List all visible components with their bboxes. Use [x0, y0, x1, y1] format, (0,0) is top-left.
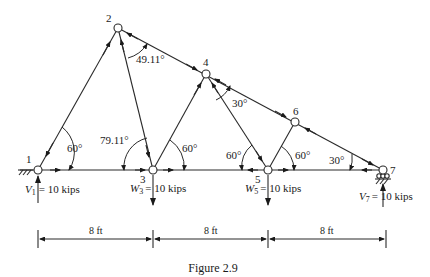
joint-4 [202, 70, 210, 78]
dimension-label-1: 8 ft [89, 225, 103, 236]
dimension-label-3: 8 ft [320, 225, 334, 236]
angle-label-joint2: 49.11° [136, 53, 165, 65]
joint-5 [264, 166, 272, 174]
label-w3: W3= 10 kips [130, 182, 186, 196]
joint-2 [114, 24, 122, 32]
angle-label-joint1: 60° [67, 142, 82, 154]
roller-support-joint7 [375, 174, 391, 184]
truss-diagram: 60° 49.11° 79.11° 60° 30° 60° 60° 30° V1… [0, 0, 430, 277]
joint-label-3: 3 [140, 173, 146, 185]
joint-label-7: 7 [390, 164, 396, 176]
angle-label-joint3-left: 79.11° [100, 134, 129, 146]
joint-label-2: 2 [106, 12, 112, 24]
label-v1: V1= 10 kips [25, 183, 80, 197]
joint-label-6: 6 [293, 105, 299, 117]
joint-label-1: 1 [26, 153, 32, 165]
label-v7: V7= 10 kips [359, 190, 413, 204]
dimension-label-2: 8 ft [204, 225, 218, 236]
angle-label-joint5-left: 60° [226, 149, 241, 161]
angle-label-joint3-right: 60° [182, 142, 197, 154]
joint-label-5: 5 [255, 173, 261, 185]
joint-3 [149, 166, 157, 174]
figure-caption: Figure 2.9 [188, 261, 237, 275]
joint-label-4: 4 [203, 56, 209, 68]
angle-label-joint7: 30° [329, 154, 344, 166]
force-arrows [46, 33, 373, 170]
pin-support-joint1 [18, 170, 33, 175]
member-2-4-6-7-top-chord [118, 28, 383, 170]
angle-label-joint4: 30° [232, 97, 247, 109]
joints [34, 24, 387, 174]
joint-6 [291, 118, 299, 126]
angle-label-joint5-right: 60° [295, 149, 310, 161]
label-w5: W5= 10 kips [245, 182, 301, 196]
joint-7 [379, 166, 387, 174]
joint-1 [34, 166, 42, 174]
